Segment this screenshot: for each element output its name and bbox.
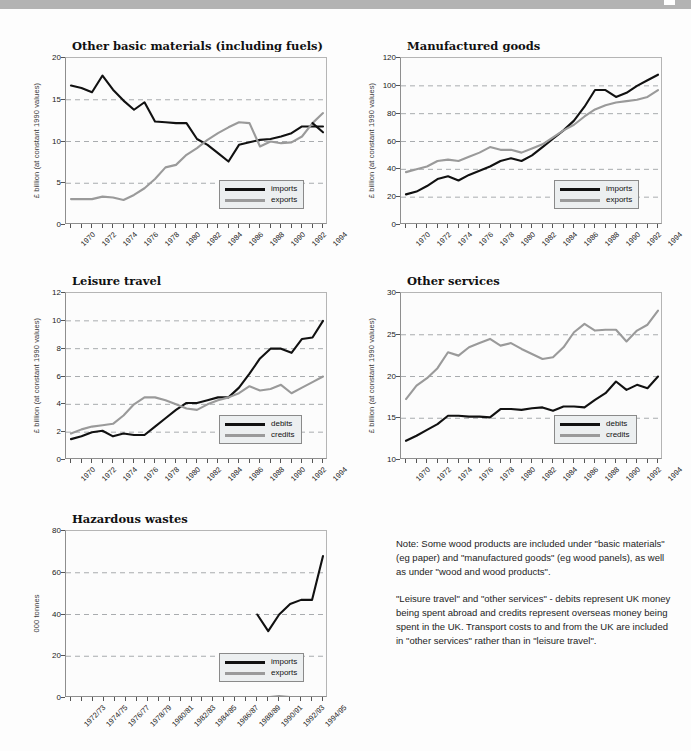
chart-title: Other services [407,274,675,288]
x-tick-mark [563,459,564,463]
y-tick-label: 100 [355,80,396,89]
x-tick-mark [636,459,637,463]
series-line-imports [257,556,323,631]
x-tick-label: 1980/81 [170,703,196,729]
x-tick-mark [112,224,113,228]
x-tick-mark [223,697,224,701]
x-tick-mark [626,459,627,463]
x-tick-mark [175,224,176,228]
x-tick-mark [238,224,239,228]
x-tick-label: 1990 [624,465,642,483]
x-tick-mark [249,459,250,463]
chart-title: Leisure travel [72,274,340,288]
x-tick-mark [92,697,93,701]
y-tick-label: 60 [355,136,396,145]
x-tick-mark [510,224,511,228]
figure-page: Other basic materials (including fuels) … [0,9,691,751]
x-tick-label: 1972 [435,465,453,483]
x-tick-mark [479,224,480,228]
x-tick-label: 1994/95 [323,703,349,729]
y-tick-mark [61,99,65,100]
x-tick-mark [81,224,82,228]
legend-item-credits: credits [225,431,295,439]
x-tick-mark [136,697,137,701]
x-tick-label: 1970 [414,465,432,483]
legend-swatch-exports [225,199,265,202]
x-tick-mark [238,459,239,463]
legend-swatch-exports [225,672,265,675]
x-tick-label: 1990 [624,230,642,248]
x-tick-mark [186,224,187,228]
y-tick-mark [396,113,400,114]
x-tick-mark [103,697,104,701]
y-tick-label: 60 [20,567,61,576]
x-tick-mark [552,224,553,228]
series-line-imports [406,75,658,195]
note-paragraph-wood-products: Note: Some wood products are included un… [396,537,676,579]
x-tick-mark [125,697,126,701]
notes-block: Note: Some wood products are included un… [396,537,676,661]
x-tick-mark [605,224,606,228]
legend-item-credits: credits [560,431,630,439]
chart-legend: importsexports [219,653,304,682]
x-tick-mark [657,459,658,463]
x-tick-mark [573,224,574,228]
series-line-exports [406,90,658,172]
y-tick-mark [396,459,400,460]
x-tick-mark [123,459,124,463]
x-tick-mark [186,459,187,463]
x-tick-label: 1982 [540,230,558,248]
x-tick-mark [301,459,302,463]
x-tick-label: 1992 [645,230,663,248]
y-tick-mark [396,141,400,142]
y-tick-mark [61,224,65,225]
plot-area: 000 tonnes0204060801972/731974/751976/77… [20,528,340,747]
x-tick-mark [114,697,115,701]
chart-title: Other basic materials (including fuels) [72,39,340,53]
y-tick-label: 6 [20,371,61,380]
x-tick-mark [584,224,585,228]
chart-title: Hazardous wastes [72,512,340,526]
y-tick-mark [396,417,400,418]
x-tick-label: 1990 [289,465,307,483]
x-tick-mark [228,459,229,463]
y-tick-label: 80 [20,526,61,535]
x-tick-label: 1988 [603,230,621,248]
legend-label: exports [271,196,297,204]
x-tick-mark [447,459,448,463]
x-tick-label: 1992/93 [301,703,327,729]
x-tick-label: 1978 [498,465,516,483]
x-tick-mark [626,224,627,228]
x-tick-mark [521,459,522,463]
x-tick-mark [615,224,616,228]
y-tick-mark [61,614,65,615]
x-tick-mark [437,459,438,463]
header-notch [664,0,675,5]
y-tick-mark [61,292,65,293]
x-tick-mark [563,224,564,228]
legend-label: credits [271,431,295,439]
x-tick-label: 1990 [289,230,307,248]
x-tick-mark [133,224,134,228]
x-tick-mark [405,459,406,463]
x-tick-label: 1984 [561,465,579,483]
x-tick-mark [500,224,501,228]
x-tick-mark [154,224,155,228]
chart-legend: importsexports [219,180,304,209]
x-tick-mark [169,697,170,701]
x-tick-label: 1982 [205,465,223,483]
chart-legend: debitscredits [219,415,302,444]
x-tick-mark [489,459,490,463]
legend-item-debits: debits [225,420,295,428]
legend-item-debits: debits [560,420,630,428]
x-tick-label: 1970 [79,465,97,483]
x-tick-mark [207,224,208,228]
y-tick-label: 20 [20,53,61,62]
x-tick-mark [234,697,235,701]
x-tick-mark [437,224,438,228]
x-tick-label: 1974 [456,230,474,248]
x-tick-label: 1974 [121,230,139,248]
x-tick-label: 1982/83 [192,703,218,729]
x-tick-label: 1986 [247,230,265,248]
x-tick-mark [605,459,606,463]
